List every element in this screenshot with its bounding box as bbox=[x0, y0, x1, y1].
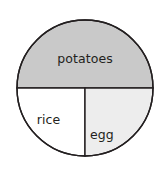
pie-label-egg-noodles-line1: egg bbox=[90, 128, 150, 143]
pie-label-potatoes: potatoes bbox=[17, 52, 153, 67]
pie-label-egg-noodles-line2: noodles bbox=[90, 172, 150, 174]
pie-label-egg-noodles: egg noodles bbox=[90, 99, 150, 173]
pie-chart: potatoes rice egg noodles bbox=[0, 0, 163, 173]
pie-label-rice: rice bbox=[17, 113, 80, 128]
